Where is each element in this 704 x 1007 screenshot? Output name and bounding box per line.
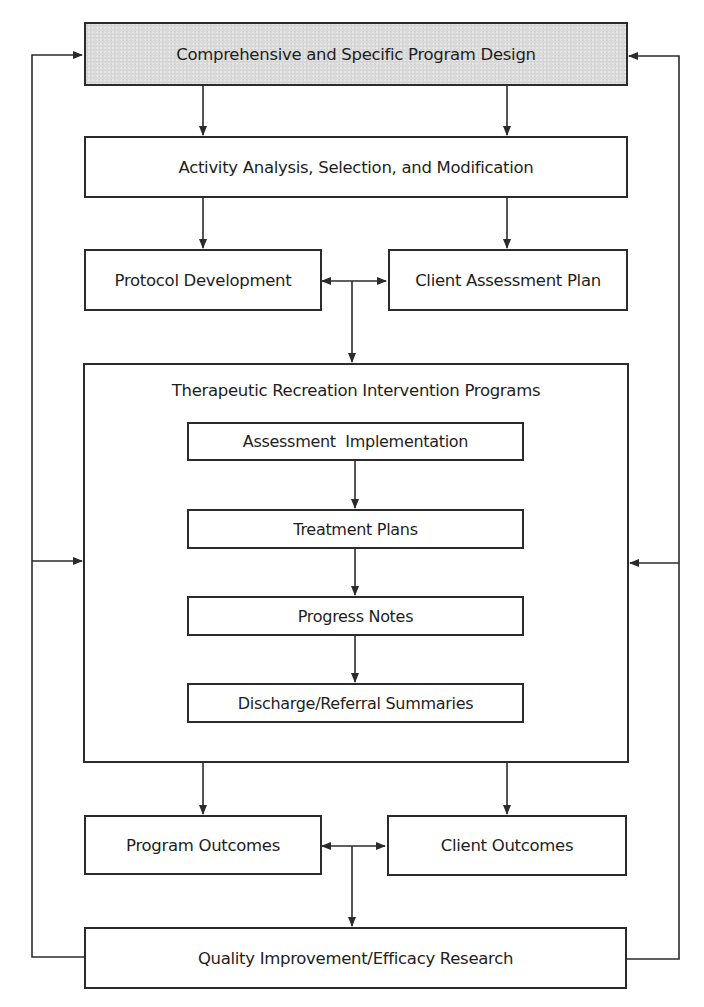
node-label: Treatment Plans [293, 520, 417, 539]
node-label: Program Outcomes [126, 836, 280, 855]
node-protocol-development: Protocol Development [84, 249, 322, 311]
node-treatment-plans: Treatment Plans [187, 509, 524, 549]
node-assessment-implementation: Assessment Implementation [187, 422, 524, 461]
node-label: Assessment Implementation [243, 432, 468, 451]
node-client-assessment-plan: Client Assessment Plan [388, 249, 628, 311]
node-label: Discharge/Referral Summaries [238, 694, 474, 713]
node-discharge-summaries: Discharge/Referral Summaries [187, 683, 524, 723]
node-progress-notes: Progress Notes [187, 596, 524, 636]
node-program-outcomes: Program Outcomes [84, 815, 322, 875]
node-label: Client Assessment Plan [415, 271, 601, 290]
node-label: Progress Notes [298, 607, 413, 626]
group-title: Therapeutic Recreation Intervention Prog… [85, 381, 627, 400]
node-label: Quality Improvement/Efficacy Research [198, 949, 513, 968]
node-program-design: Comprehensive and Specific Program Desig… [84, 22, 628, 86]
feedback-loop-right [626, 56, 679, 959]
node-label: Protocol Development [115, 271, 292, 290]
node-activity-analysis: Activity Analysis, Selection, and Modifi… [84, 136, 628, 198]
node-label: Comprehensive and Specific Program Desig… [176, 45, 535, 64]
node-label: Activity Analysis, Selection, and Modifi… [178, 158, 533, 177]
feedback-loop-left [32, 55, 84, 957]
node-quality-improvement: Quality Improvement/Efficacy Research [84, 927, 627, 989]
node-client-outcomes: Client Outcomes [387, 815, 627, 876]
node-label: Client Outcomes [441, 836, 573, 855]
